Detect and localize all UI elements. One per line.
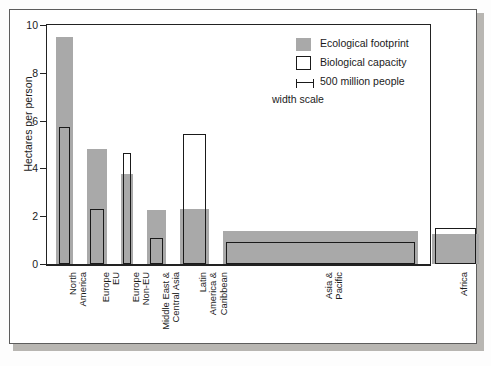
x-category-label: EuropeNon-EU [131,272,152,305]
legend-item-scale: 500 million people [296,74,446,93]
y-tick-label: 6 [32,116,38,127]
filled-gray-square-icon [296,38,311,51]
bar-biological-capacity [59,127,70,264]
chart-page: Hectares per person 0246810 NorthAmerica… [0,0,491,366]
open-square-icon [296,56,311,70]
legend-label-capacity: Biological capacity [320,56,406,68]
y-tick-mark [40,73,46,74]
y-tick-mark [40,25,46,26]
x-category-label: LatinAmerica &Caribbean [198,272,229,315]
y-tick-mark [40,121,46,122]
bar-biological-capacity [150,238,163,264]
y-tick-label: 4 [32,163,38,174]
chart-legend: Ecological footprint Biological capacity… [296,36,446,93]
x-category-label: Africa [459,272,469,296]
legend-item-footprint: Ecological footprint [296,36,446,55]
legend-sublabel: width scale [272,93,324,105]
scale-bar-icon [296,82,314,83]
bar-biological-capacity [123,153,131,264]
x-category-label: Middle East &Central Asia [161,272,182,330]
legend-item-capacity: Biological capacity [296,55,446,74]
y-axis-line [46,24,47,265]
y-tick-mark [40,264,46,265]
legend-label-footprint: Ecological footprint [320,37,409,49]
y-tick-label: 8 [32,68,38,79]
x-category-label: EuropeEU [101,272,122,302]
y-tick-label: 0 [32,259,38,270]
y-tick-mark [40,216,46,217]
x-axis-line [46,264,431,265]
bar-biological-capacity [435,228,476,264]
legend-label-scale: 500 million people [320,75,405,87]
y-tick-mark [40,168,46,169]
bar-biological-capacity [183,134,206,264]
bar-biological-capacity [90,209,104,264]
y-tick-label: 10 [26,20,38,31]
bar-biological-capacity [226,242,415,264]
x-category-label: Asia &Pacific [324,272,345,300]
x-category-label: NorthAmerica [68,272,89,306]
y-tick-label: 2 [32,211,38,222]
